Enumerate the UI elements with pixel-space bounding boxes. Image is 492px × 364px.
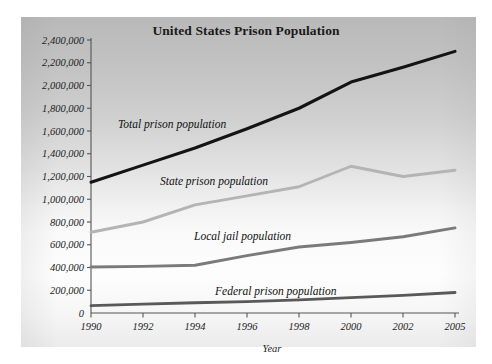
series-label-0: Total prison population: [118, 118, 226, 131]
x-axis-tick-label: 1996: [237, 321, 259, 332]
x-axis-tick-label: 1998: [289, 321, 311, 332]
y-axis-tick-label: 200,000: [50, 285, 85, 296]
x-axis-tick-label: 2005: [445, 321, 466, 332]
series-label-3: Federal prison population: [214, 285, 337, 298]
x-axis-tick-label: 2000: [341, 321, 363, 332]
x-axis-title: Year: [263, 343, 283, 354]
data-series-group: [91, 51, 455, 305]
series-line-1: [91, 166, 455, 232]
chart-figure: United States Prison Population 0200,000…: [0, 0, 492, 364]
series-label-group: Total prison populationState prison popu…: [118, 118, 337, 298]
y-axis-tick-label: 1,200,000: [42, 171, 85, 182]
x-axis-tick-label: 1994: [185, 321, 207, 332]
y-axis-tick-label: 1,800,000: [42, 103, 85, 114]
y-axis-tick-label: 2,400,000: [42, 35, 85, 46]
y-axis-tick-label: 800,000: [50, 217, 85, 228]
y-axis-tick-label: 2,200,000: [42, 57, 85, 68]
y-axis-tick-label: 1,000,000: [42, 194, 85, 205]
y-axis: 0200,000400,000600,000800,0001,000,0001,…: [42, 35, 91, 319]
series-label-1: State prison population: [160, 175, 268, 188]
y-axis-tick-label: 1,400,000: [42, 148, 85, 159]
y-axis-tick-label: 600,000: [50, 239, 85, 250]
line-chart-plot: 0200,000400,000600,000800,0001,000,0001,…: [0, 0, 492, 364]
x-axis-tick-label: 2002: [393, 321, 415, 332]
y-axis-tick-label: 2,000,000: [42, 80, 85, 91]
y-axis-tick-label: 0: [79, 308, 85, 319]
x-axis-tick-label: 1992: [133, 321, 155, 332]
y-axis-tick-label: 400,000: [50, 262, 85, 273]
x-axis-tick-label: 1990: [81, 321, 103, 332]
series-line-0: [91, 51, 455, 182]
x-axis: 19901992199419961998200020022005: [81, 313, 466, 332]
series-label-2: Local jail population: [193, 230, 291, 243]
y-axis-tick-label: 1,600,000: [42, 126, 85, 137]
